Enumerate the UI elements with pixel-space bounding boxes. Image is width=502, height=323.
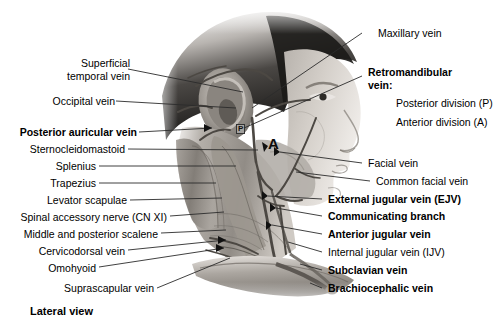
figure-caption: Lateral view (30, 305, 93, 318)
label-trapezius: Trapezius (30, 177, 96, 190)
label-spinal-accessory-nerve: Spinal accessory nerve (CN XI) (10, 211, 167, 224)
label-suprascapular-vein: Suprascapular vein (40, 282, 154, 295)
anterior-division-marker: A (268, 135, 279, 152)
label-cervicodorsal-vein: Cervicodorsal vein (18, 245, 125, 258)
label-maxillary-vein: Maxillary vein (378, 27, 442, 40)
label-facial-vein: Facial vein (368, 157, 418, 170)
label-subclavian-vein: Subclavian vein (328, 264, 407, 277)
label-brachiocephalic-vein: Brachiocephalic vein (328, 282, 433, 295)
label-sternocleidomastoid: Sternocleidomastoid (10, 143, 125, 156)
label-anterior-division: Anterior division (A) (396, 116, 488, 129)
label-anterior-jugular-vein: Anterior jugular vein (328, 228, 431, 241)
label-external-jugular-vein: External jugular vein (EJV) (328, 193, 461, 206)
label-posterior-division: Posterior division (P) (396, 97, 493, 110)
label-communicating-branch: Communicating branch (328, 210, 445, 223)
label-retromandibular-vein: Retromandibular (368, 66, 452, 79)
label-common-facial-vein: Common facial vein (376, 175, 468, 188)
label-text-line1: Superficial (81, 57, 130, 69)
label-splenius: Splenius (30, 160, 96, 173)
label-posterior-auricular-vein: Posterior auricular vein (10, 126, 137, 139)
label-omohyoid: Omohyoid (30, 262, 96, 275)
label-superficial-temporal-vein: Superficial temporal vein (60, 57, 130, 83)
figure-canvas: P A (0, 0, 502, 323)
label-levator-scapulae: Levator scapulae (30, 194, 127, 207)
label-occipital-vein: Occipital vein (35, 95, 115, 108)
posterior-division-marker: P (236, 124, 245, 134)
label-text-line2: temporal vein (67, 70, 130, 82)
label-retromandibular-vein-line2: vein: (368, 79, 393, 92)
label-middle-and-posterior-scalene: Middle and posterior scalene (5, 228, 158, 241)
label-internal-jugular-vein: Internal jugular vein (IJV) (328, 246, 445, 259)
